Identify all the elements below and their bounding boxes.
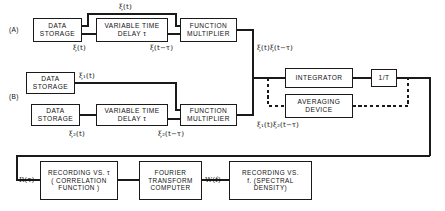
signal-label-b-storage1-out: ξ₁(t) (79, 72, 95, 80)
block-b-data-storage-1: DATA STORAGE (27, 73, 75, 94)
signal-label-b-delay-out: ξ₂(t−τ) (158, 130, 184, 138)
wire-a-multiplier-out (237, 30, 254, 78)
signal-label-a-storage-out: ξ(t) (73, 44, 86, 52)
row-label-a: (A) (9, 26, 19, 33)
block-averaging-device: AVERAGING DEVICE (286, 95, 353, 118)
block-gain-one-over-t: 1/T (372, 70, 397, 87)
block-b-variable-time-delay: VARIABLE TIME DELAY τ (97, 105, 168, 126)
block-b-data-storage-2: DATA STORAGE (32, 105, 80, 126)
block-b-function-multiplier: FUNCTION MULTIPLIER (181, 105, 237, 126)
wire-gain-to-return (397, 78, 431, 156)
signal-label-a-feedforward: ξ(t) (119, 3, 132, 11)
signal-label-correlation-out: R(τ) (19, 176, 34, 184)
wire-dashed-bus-to-averaging (268, 78, 286, 106)
block-diagram: DATA STORAGE VARIABLE TIME DELAY τ FUNCT… (0, 0, 445, 211)
block-fourier-transform-computer: FOURIER TRANSFORM COMPUTER (140, 162, 202, 200)
signal-label-b-storage2-out: ξ₂(t) (69, 130, 85, 138)
block-integrator: INTEGRATOR (286, 69, 353, 88)
signal-label-spectral-in: W(f) (205, 176, 221, 184)
block-a-data-storage: DATA STORAGE (34, 19, 82, 42)
block-recording-correlation-function: RECORDING VS. τ ( CORRELATION FUNCTION ) (41, 162, 118, 200)
wire-b-multiplier-out (237, 78, 254, 115)
signal-label-a-delay-out: ξ(t−τ) (150, 44, 173, 52)
block-recording-spectral-density: RECORDING VS. f. (SPECTRAL DENSITY) (230, 162, 312, 200)
block-a-function-multiplier: FUNCTION MULTIPLIER (181, 19, 237, 42)
signal-label-b-product: ξ₁(t)ξ₂(t−τ) (257, 121, 299, 129)
signal-label-a-product: ξ(t)ξ(t−τ) (257, 44, 293, 52)
row-label-b: (B) (9, 93, 19, 100)
block-a-variable-time-delay: VARIABLE TIME DELAY τ (97, 19, 168, 42)
